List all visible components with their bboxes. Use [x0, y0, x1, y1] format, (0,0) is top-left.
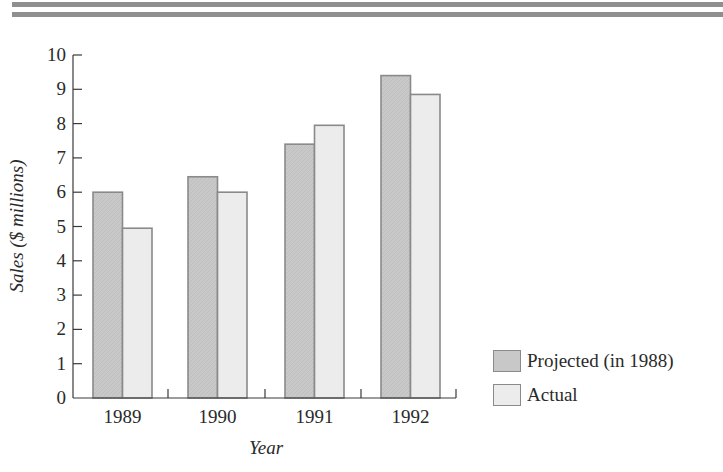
x-tick-label: 1991 — [275, 406, 355, 428]
bar-1992-projected — [381, 76, 411, 398]
x-axis-title: Year — [216, 437, 316, 459]
bar-1991-actual — [315, 125, 345, 398]
bar-1990-projected — [188, 177, 218, 398]
legend-item-actual: Actual — [493, 378, 674, 412]
bar-1992-actual — [411, 94, 441, 398]
legend-label-projected: Projected (in 1988) — [527, 350, 674, 372]
legend-item-projected: Projected (in 1988) — [493, 344, 674, 378]
legend: Projected (in 1988) Actual — [493, 344, 674, 412]
x-tick-label: 1989 — [83, 406, 163, 428]
bar-1990-actual — [218, 192, 248, 398]
x-tick-label: 1992 — [371, 406, 451, 428]
legend-swatch-projected — [493, 350, 521, 372]
bar-1989-projected — [93, 192, 123, 398]
x-tick-label: 1990 — [178, 406, 258, 428]
legend-label-actual: Actual — [527, 384, 578, 406]
bar-1989-actual — [123, 228, 153, 398]
legend-swatch-actual — [493, 384, 521, 406]
bar-1991-projected — [285, 144, 315, 398]
